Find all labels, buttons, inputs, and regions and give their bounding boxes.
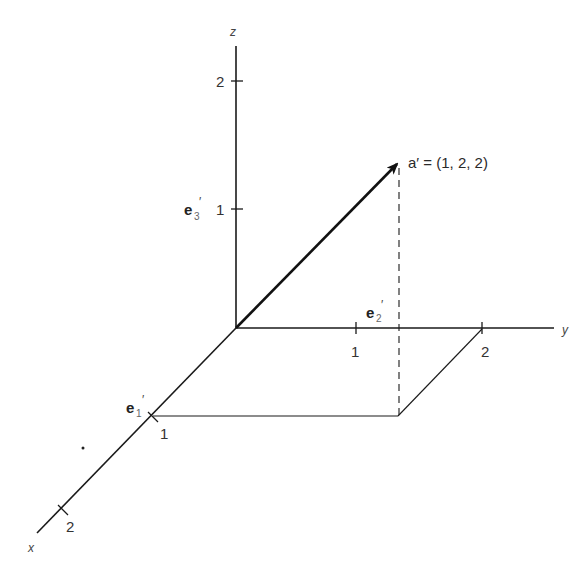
- projection-y2-line: [398, 329, 482, 416]
- svg-text:e: e: [184, 201, 192, 218]
- x-tick-label-2: 2: [66, 518, 74, 535]
- z-tick-label-1: 1: [216, 201, 224, 218]
- z-tick-label-2: 2: [216, 73, 224, 90]
- e2-label: e 2 ′: [366, 298, 384, 324]
- x-axis-label: x: [27, 541, 35, 555]
- stray-dot: [82, 447, 85, 450]
- svg-text:2: 2: [376, 313, 382, 324]
- x-axis: [37, 328, 236, 533]
- e3-label: e 3 ′: [184, 195, 202, 222]
- svg-text:e: e: [366, 304, 374, 321]
- e1-label: e 1 ′: [126, 393, 145, 419]
- svg-text:′: ′: [142, 393, 145, 407]
- vector-a-prime-label: a′ = (1, 2, 2): [408, 154, 488, 171]
- y-tick-label-2: 2: [481, 343, 489, 360]
- svg-text:′: ′: [199, 195, 202, 209]
- svg-text:3: 3: [194, 211, 200, 222]
- svg-text:′: ′: [381, 298, 384, 312]
- y-tick-label-1: 1: [351, 343, 359, 360]
- coordinate-diagram: z y x 2 1 1 2 1 2 e 3 ′ e 2 ′ e 1 ′ a′ =…: [0, 0, 576, 569]
- y-axis-label: y: [561, 323, 569, 337]
- z-axis-label: z: [229, 25, 236, 39]
- svg-text:1: 1: [136, 408, 142, 419]
- x-tick-label-1: 1: [160, 425, 168, 442]
- svg-text:e: e: [126, 399, 134, 416]
